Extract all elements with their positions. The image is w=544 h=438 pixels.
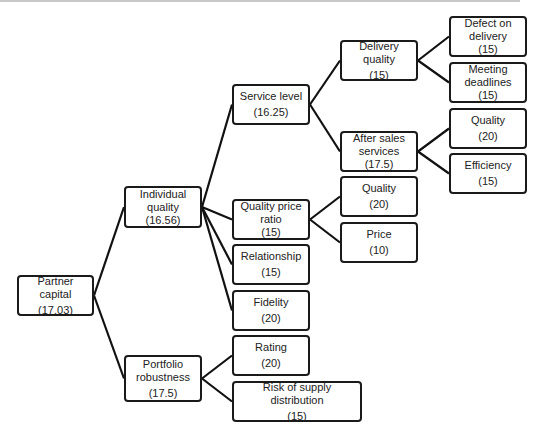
node-label: Relationship — [241, 250, 302, 263]
node-value: (16.25) — [254, 106, 289, 119]
node-delivery-quality: Delivery quality(15) — [340, 40, 418, 81]
node-quality-price-ratio: Quality price ratio(15) — [232, 199, 310, 240]
node-fidelity: Fidelity(20) — [232, 290, 310, 331]
edge-quality_price_ratio-qpr_quality — [310, 197, 340, 220]
node-value: (15) — [287, 410, 307, 423]
node-value: (17.03) — [38, 304, 73, 317]
node-label: Efficiency — [465, 159, 512, 172]
node-portfolio-robustness: Portfolio robustness(17.5) — [124, 355, 202, 402]
node-label: Rating — [255, 341, 287, 354]
edge-service_level-after_sales — [310, 105, 340, 152]
edge-quality_price_ratio-qpr_price — [310, 220, 340, 243]
node-value: (15) — [261, 226, 281, 239]
node-after-sales: After sales services(17.5) — [340, 131, 418, 172]
edge-after_sales-as_efficiency — [418, 152, 449, 174]
node-value: (20) — [478, 130, 498, 143]
edge-service_level-delivery_quality — [310, 61, 340, 105]
node-value: (15) — [261, 266, 281, 279]
node-meeting-deadlines: Meeting deadlines(15) — [449, 62, 527, 103]
node-individual-quality: Individual quality(16.56) — [124, 186, 202, 228]
node-label: Delivery quality — [344, 40, 414, 66]
node-value: (20) — [261, 312, 281, 325]
node-label: Meeting deadlines — [453, 63, 523, 89]
node-value: (20) — [261, 357, 281, 370]
node-qpr-price: Price(10) — [340, 222, 418, 263]
node-value: (20) — [369, 198, 389, 211]
node-defect-delivery: Defect on delivery(15) — [449, 16, 527, 57]
node-service-level: Service level(16.25) — [232, 84, 310, 125]
edge-individual_quality-fidelity — [202, 207, 232, 311]
node-partner-capital: Partner capital(17.03) — [17, 275, 94, 316]
node-value: (17.5) — [365, 158, 394, 171]
node-value: (15) — [369, 69, 389, 82]
node-label: After sales services — [344, 132, 414, 158]
node-label: Defect on delivery — [453, 17, 523, 43]
node-risk-supply: Risk of supply distribution(15) — [232, 381, 362, 422]
node-label: Fidelity — [254, 296, 289, 309]
node-label: Partner capital — [21, 275, 90, 301]
edge-after_sales-as_quality — [418, 129, 449, 152]
node-label: Service level — [240, 90, 302, 103]
edge-individual_quality-service_level — [202, 105, 232, 208]
node-as-efficiency: Efficiency(15) — [449, 153, 527, 194]
node-qpr-quality: Quality(20) — [340, 176, 418, 217]
node-label: Quality — [471, 114, 505, 127]
node-value: (15) — [478, 43, 498, 56]
edge-partner_capital-individual_quality — [94, 207, 124, 296]
edge-portfolio_robustness-rating — [202, 356, 232, 379]
node-value: (15) — [478, 175, 498, 188]
node-rating: Rating(20) — [232, 335, 310, 376]
node-label: Price — [366, 228, 391, 241]
node-label: Portfolio robustness — [128, 358, 198, 384]
node-value: (10) — [369, 244, 389, 257]
node-value: (17.5) — [149, 387, 178, 400]
edge-partner_capital-portfolio_robustness — [94, 296, 124, 379]
edge-delivery_quality-meeting_deadlines — [418, 61, 449, 83]
node-value: (16.56) — [146, 214, 181, 227]
node-label: Risk of supply distribution — [236, 381, 358, 407]
node-as-quality: Quality(20) — [449, 108, 527, 149]
edge-delivery_quality-defect_delivery — [418, 37, 449, 61]
edge-portfolio_robustness-risk_supply — [202, 379, 232, 402]
node-label: Individual quality — [128, 188, 198, 214]
node-label: Quality — [362, 182, 396, 195]
node-relationship: Relationship(15) — [232, 244, 310, 285]
node-value: (15) — [478, 89, 498, 102]
node-label: Quality price ratio — [236, 200, 306, 226]
